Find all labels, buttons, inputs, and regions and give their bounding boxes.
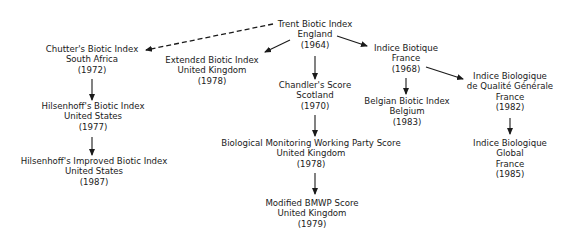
node-modified-bmwp-score: Modified BMWP Score United Kingdom (1979…: [265, 198, 358, 229]
node-country: Belgium: [364, 106, 449, 116]
node-year: (1968): [374, 64, 438, 74]
node-indice-biotique: Indice Biotique France (1968): [374, 43, 438, 74]
node-name: Chandler's Score: [279, 80, 351, 90]
node-country: United Kingdom: [221, 148, 400, 158]
node-year: (1964): [278, 40, 353, 50]
node-name: Indice Biotique: [374, 43, 438, 53]
node-country: France: [374, 53, 438, 63]
node-country: South Africa: [46, 54, 138, 64]
node-hilsenhoffs-biotic-index: Hilsenhoff's Biotic Index United States …: [41, 101, 144, 132]
node-year: (1987): [21, 177, 168, 187]
node-year: (1979): [265, 219, 358, 229]
node-trent-biotic-index: Trent Biotic Index England (1964): [278, 19, 353, 50]
node-name: Hilsenhoff's Improved Biotic Index: [21, 156, 168, 166]
node-country: United States: [41, 111, 144, 121]
node-name-line2: de Qualité Générale: [467, 81, 553, 91]
edge-trent-chutter: [146, 24, 273, 50]
node-chutters-biotic-index: Chutter's Biotic Index South Africa (197…: [46, 44, 138, 75]
node-year: (1970): [279, 101, 351, 111]
node-name-line2: Global: [473, 148, 547, 158]
node-name: Trent Biotic Index: [278, 19, 353, 29]
node-year: (1977): [41, 122, 144, 132]
node-country: Scotland: [279, 90, 351, 100]
node-bmwp-score: Biological Monitoring Working Party Scor…: [221, 138, 400, 169]
node-indice-biologique-global: Indice Biologique Global France (1985): [473, 138, 547, 180]
node-year: (1978): [165, 76, 258, 86]
node-country: France: [467, 92, 553, 102]
node-indice-biologique-qualite-generale: Indice Biologique de Qualité Générale Fr…: [467, 71, 553, 113]
node-year: (1983): [364, 117, 449, 127]
node-year: (1972): [46, 65, 138, 75]
node-hilsenhoffs-improved-biotic-index: Hilsenhoff's Improved Biotic Index Unite…: [21, 156, 168, 187]
node-belgian-biotic-index: Belgian Biotic Index Belgium (1983): [364, 96, 449, 127]
node-name: Modified BMWP Score: [265, 198, 358, 208]
node-name: Chutter's Biotic Index: [46, 44, 138, 54]
node-country: England: [278, 29, 353, 39]
node-name: Hilsenhoff's Biotic Index: [41, 101, 144, 111]
node-extended-biotic-index: Extendɛd Biotic Index United Kingdom (19…: [165, 55, 258, 86]
node-country: United Kingdom: [265, 208, 358, 218]
node-name: Indice Biologique: [473, 138, 547, 148]
node-name: Biological Monitoring Working Party Scor…: [221, 138, 400, 148]
node-country: United Kingdom: [165, 65, 258, 75]
node-year: (1982): [467, 102, 553, 112]
node-year: (1985): [473, 169, 547, 179]
node-country: United States: [21, 166, 168, 176]
node-name: Extendɛd Biotic Index: [165, 55, 258, 65]
node-chandlers-score: Chandler's Score Scotland (1970): [279, 80, 351, 111]
node-name: Belgian Biotic Index: [364, 96, 449, 106]
node-country: France: [473, 159, 547, 169]
node-name: Indice Biologique: [467, 71, 553, 81]
node-year: (1978): [221, 159, 400, 169]
